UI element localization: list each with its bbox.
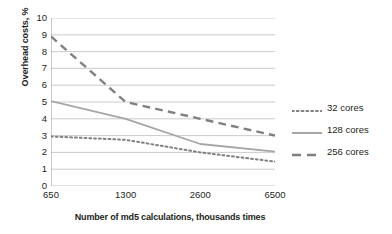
legend-swatch-solid (292, 124, 322, 134)
y-axis-tick-label: 9 (19, 30, 47, 40)
series-lines (51, 36, 275, 161)
y-axis-tick-label: 3 (19, 131, 47, 141)
plot-svg (51, 18, 275, 186)
legend-item[interactable]: 128 cores (292, 118, 390, 140)
y-axis-tick-labels: 012345678910 (14, 18, 47, 186)
y-axis-tick-label: 2 (19, 147, 47, 157)
x-axis-tick-label: 2600 (178, 189, 222, 200)
y-axis-tick-label: 1 (19, 164, 47, 174)
y-axis-tick-label: 7 (19, 63, 47, 73)
legend-label: 256 cores (327, 146, 369, 157)
y-axis-tick-label: 6 (19, 80, 47, 90)
series-line (51, 101, 275, 151)
x-axis-title: Number of md5 calculations, thousands ti… (50, 212, 290, 222)
x-axis-tick-label: 650 (29, 189, 73, 200)
gridlines (51, 18, 275, 186)
chart-figure: Overhead costs, % 012345678910 650130026… (0, 0, 392, 234)
x-axis-tick-label: 1300 (104, 189, 148, 200)
legend-swatch-dotted (292, 102, 322, 112)
legend-swatch-dashed (292, 146, 322, 156)
y-axis-tick-label: 8 (19, 47, 47, 57)
x-axis-tick-label: 6500 (253, 189, 297, 200)
y-axis-tick-label: 10 (19, 13, 47, 23)
x-axis-tick-labels: 650130026006500 (51, 189, 275, 203)
legend-label: 128 cores (327, 124, 369, 135)
y-axis-tick-label: 5 (19, 97, 47, 107)
chart-legend: 32 cores128 cores256 cores (292, 96, 390, 162)
legend-item[interactable]: 32 cores (292, 96, 390, 118)
plot-area (51, 18, 275, 186)
legend-item[interactable]: 256 cores (292, 140, 390, 162)
y-axis-tick-label: 4 (19, 114, 47, 124)
legend-label: 32 cores (327, 102, 363, 113)
